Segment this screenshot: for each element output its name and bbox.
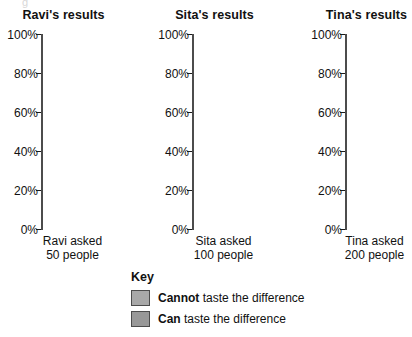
y-tick-80-tina: 80% xyxy=(304,68,342,80)
y-tick-60: 60% xyxy=(0,107,38,119)
legend: Key Cannot taste the difference Can tast… xyxy=(131,270,331,330)
caption-tina: Tina asked 200 people xyxy=(310,234,412,262)
caption-sita: Sita asked 100 people xyxy=(159,234,288,262)
stacked-bar-tina[interactable] xyxy=(345,34,347,230)
panel-sita: Sita's results 100% 80% 60% 40% 20% 0% S… xyxy=(151,0,284,264)
y-tick-100: 100% xyxy=(0,29,38,41)
legend-item-cannot[interactable]: Cannot taste the difference xyxy=(131,288,331,307)
y-tick-20: 20% xyxy=(0,185,38,197)
y-tick-40-sita: 40% xyxy=(151,146,189,158)
plot-area-tina xyxy=(345,34,386,230)
caption-ravi: Ravi asked 50 people xyxy=(8,234,137,262)
caption-tina-line1: Tina asked xyxy=(310,234,412,248)
legend-label-cannot-rest: taste the difference xyxy=(199,291,304,305)
panel-tina: Tina's results 100% 80% 60% 40% 20% 0% T… xyxy=(304,0,412,264)
legend-swatch-can xyxy=(131,311,150,327)
legend-label-can-rest: taste the difference xyxy=(181,312,286,326)
caption-ravi-line1: Ravi asked xyxy=(8,234,137,248)
panel-ravi: Ravi's results 100% 80% 60% 40% 20% 0% xyxy=(0,0,133,264)
legend-title: Key xyxy=(131,270,331,284)
stacked-bar-sita[interactable] xyxy=(192,34,194,230)
legend-swatch-cannot xyxy=(131,290,150,306)
y-tick-60-tina: 60% xyxy=(304,107,342,119)
y-tick-60-sita: 60% xyxy=(151,107,189,119)
chart-canvas: g Ravi's results 100% 80% 60% 40% 20% 0% xyxy=(0,0,412,337)
y-tick-40: 40% xyxy=(0,146,38,158)
caption-sita-line1: Sita asked xyxy=(159,234,288,248)
legend-label-can: Can taste the difference xyxy=(158,312,286,326)
y-tick-100-tina: 100% xyxy=(304,29,342,41)
caption-tina-line2: 200 people xyxy=(310,248,412,262)
stacked-bar-ravi[interactable] xyxy=(41,34,43,230)
plot-area-ravi xyxy=(41,34,82,230)
y-tick-20-sita: 20% xyxy=(151,185,189,197)
y-tick-20-tina: 20% xyxy=(304,185,342,197)
y-tick-80-sita: 80% xyxy=(151,68,189,80)
legend-item-can[interactable]: Can taste the difference xyxy=(131,309,331,328)
legend-label-cannot-bold: Cannot xyxy=(158,291,199,305)
panel-title-tina: Tina's results xyxy=(296,8,412,22)
caption-ravi-line2: 50 people xyxy=(8,248,137,262)
panel-title-sita: Sita's results xyxy=(145,8,284,22)
y-tick-40-tina: 40% xyxy=(304,146,342,158)
legend-label-cannot: Cannot taste the difference xyxy=(158,291,305,305)
legend-label-can-bold: Can xyxy=(158,312,181,326)
plot-area-sita xyxy=(192,34,233,230)
panel-title-ravi: Ravi's results xyxy=(0,8,133,22)
y-tick-100-sita: 100% xyxy=(151,29,189,41)
caption-sita-line2: 100 people xyxy=(159,248,288,262)
y-tick-80: 80% xyxy=(0,68,38,80)
